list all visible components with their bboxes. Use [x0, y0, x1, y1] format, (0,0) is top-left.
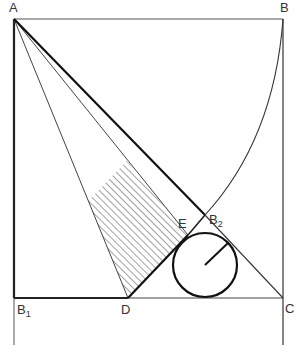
geometry-diagram: A B C D E B1 B2 [0, 0, 299, 353]
label-E: E [178, 216, 187, 231]
label-A: A [9, 0, 18, 15]
label-B: B [280, 0, 289, 15]
arc-B-B2 [205, 19, 283, 215]
label-B2: B2 [209, 212, 223, 229]
label-B1-main: B [17, 302, 26, 317]
label-D: D [121, 302, 130, 317]
label-B1: B1 [17, 302, 31, 319]
label-B2-main: B [209, 212, 218, 227]
circle-radius [205, 243, 228, 265]
line-AD [14, 19, 128, 298]
label-C: C [285, 301, 294, 316]
label-B1-sub: 1 [26, 309, 31, 319]
label-B2-sub: 2 [218, 219, 223, 229]
